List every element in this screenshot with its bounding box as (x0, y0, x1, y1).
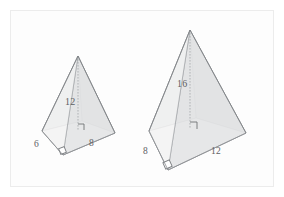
pyramids-diagram (0, 0, 284, 197)
large-pyramid-height-label: 16 (177, 78, 188, 89)
small-pyramid-height-label: 12 (65, 96, 76, 107)
large-pyramid-left-edge-label: 8 (143, 146, 148, 156)
small-pyramid-left-edge-label: 6 (34, 139, 39, 149)
figure-frame (11, 11, 274, 187)
small-pyramid-right-edge-label: 8 (89, 138, 94, 148)
large-pyramid-right-edge-label: 12 (211, 146, 221, 156)
figure-canvas: 12 6 8 16 8 12 (0, 0, 284, 197)
